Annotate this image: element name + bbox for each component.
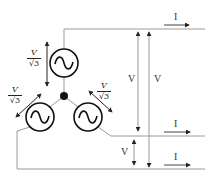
phase-voltage-label-top: V √3 bbox=[27, 49, 41, 68]
label-denominator: √3 bbox=[27, 59, 41, 68]
neutral-node bbox=[60, 92, 68, 100]
wires bbox=[17, 29, 205, 169]
line-voltage-label-3: V bbox=[121, 147, 128, 157]
phase-voltage-label-right: V √3 bbox=[97, 82, 111, 101]
current-label-bottom: I bbox=[174, 152, 177, 162]
label-denominator: √3 bbox=[97, 92, 111, 101]
line-voltage-label-2: V bbox=[154, 74, 161, 84]
label-numerator: V bbox=[27, 49, 41, 59]
label-numerator: V bbox=[97, 82, 111, 92]
generator-bottom-right bbox=[74, 103, 102, 131]
label-denominator: √3 bbox=[8, 96, 22, 105]
phase-voltage-label-left: V √3 bbox=[8, 86, 22, 105]
line-voltage-label-1: V bbox=[128, 74, 135, 84]
generator-top bbox=[50, 49, 78, 77]
generator-bottom-left bbox=[26, 103, 54, 131]
current-label-mid: I bbox=[174, 119, 177, 129]
label-numerator: V bbox=[8, 86, 22, 96]
current-label-top: I bbox=[174, 12, 177, 22]
line-3-wire bbox=[17, 127, 205, 169]
line-1-wire bbox=[64, 29, 205, 49]
